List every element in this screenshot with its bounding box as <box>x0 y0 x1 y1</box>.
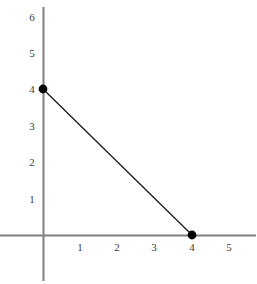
data-point-x-intercept <box>188 231 197 240</box>
y-tick-label-1: 1 <box>25 193 39 205</box>
x-tick-label-2: 2 <box>110 241 124 253</box>
y-tick-label-6: 6 <box>25 11 39 23</box>
x-tick-label-4: 4 <box>185 241 199 253</box>
data-point-y-intercept <box>39 85 48 94</box>
y-tick-label-5: 5 <box>25 47 39 59</box>
x-tick-label-3: 3 <box>147 241 161 253</box>
y-tick-label-2: 2 <box>25 156 39 168</box>
y-tick-label-4: 4 <box>25 83 39 95</box>
coordinate-plane-figure: Graph the linear equation by plotting th… <box>0 0 257 284</box>
y-tick-label-3: 3 <box>25 120 39 132</box>
x-tick-label-1: 1 <box>73 241 87 253</box>
x-tick-label-5: 5 <box>222 241 236 253</box>
plot-area <box>0 0 257 284</box>
plot-background <box>0 0 257 284</box>
